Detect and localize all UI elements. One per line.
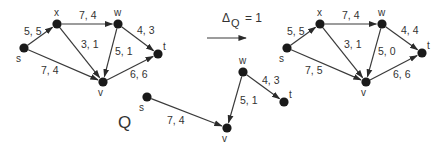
path-name-label: Q [118, 113, 131, 132]
delta-subscript: Q [231, 17, 240, 29]
edge-label-s-v: 7, 5 [305, 64, 323, 76]
node-label-x: x [317, 7, 322, 18]
node-label-s: s [16, 53, 21, 64]
edge-x-v [60, 28, 100, 78]
node-t [417, 48, 426, 57]
edge-s-v [151, 99, 222, 126]
edge-label-s-x: 5, 5 [24, 25, 42, 37]
node-x [52, 19, 61, 28]
edge-label-x-w: 7, 4 [342, 9, 360, 21]
node-s [282, 43, 291, 52]
node-label-s: s [139, 102, 144, 113]
edge-label-s-v: 7, 4 [167, 114, 185, 126]
edge-label-x-v: 3, 1 [344, 38, 362, 50]
node-label-v: v [361, 87, 366, 98]
node-label-t: t [289, 89, 292, 100]
edge-label-w-t: 4, 3 [262, 74, 280, 86]
flow-augmentation-diagram: 5, 57, 43, 15, 14, 37, 46, 6sxwvt 5, 57,… [0, 0, 443, 150]
augmented-flow-network: 5, 57, 43, 15, 04, 47, 56, 6sxwvt [279, 7, 430, 98]
edge-label-x-v: 3, 1 [81, 38, 99, 50]
node-s [142, 92, 151, 101]
delta-symbol: Δ [222, 11, 230, 25]
edge-label-s-x: 5, 5 [287, 25, 305, 37]
edge-label-w-v: 5, 0 [378, 45, 396, 57]
node-label-t: t [427, 40, 430, 51]
node-label-v: v [98, 87, 103, 98]
node-label-w: w [238, 55, 247, 66]
edge-s-v [28, 50, 98, 80]
node-label-x: x [54, 7, 59, 18]
node-t [279, 97, 288, 106]
edge-label-w-t: 4, 3 [137, 24, 155, 36]
node-t [153, 49, 162, 58]
edge-s-v [291, 50, 361, 80]
node-label-w: w [113, 7, 122, 18]
node-w [113, 19, 122, 28]
edge-label-w-v: 5, 1 [115, 45, 133, 57]
edge-label-w-t: 4, 4 [401, 24, 419, 36]
edge-x-v [323, 28, 363, 78]
node-v [98, 77, 107, 86]
node-x [315, 19, 324, 28]
node-v [361, 77, 370, 86]
node-v [222, 123, 231, 132]
node-label-w: w [377, 7, 386, 18]
augmentation-transform: Δ Q = 1 [207, 11, 262, 38]
edge-label-w-v: 5, 1 [240, 94, 258, 106]
edge-label-v-t: 6, 6 [393, 68, 411, 80]
edge-label-x-w: 7, 4 [79, 9, 97, 21]
node-label-s: s [279, 53, 284, 64]
original-flow-network: 5, 57, 43, 15, 14, 37, 46, 6sxwvt [16, 7, 166, 98]
edge-label-s-v: 7, 4 [41, 64, 59, 76]
node-w [377, 19, 386, 28]
delta-value: = 1 [245, 11, 262, 25]
node-label-v: v [222, 133, 227, 144]
node-w [238, 67, 247, 76]
edge-label-v-t: 6, 6 [130, 68, 148, 80]
node-label-t: t [163, 41, 166, 52]
node-s [19, 43, 28, 52]
